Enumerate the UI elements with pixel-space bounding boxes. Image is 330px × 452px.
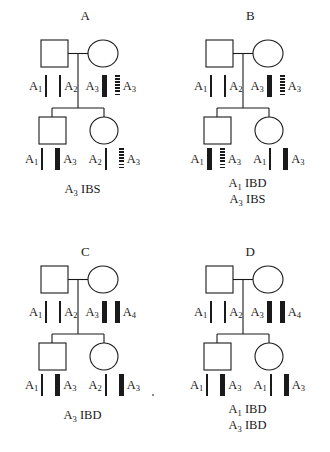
allele-label: A1 [189,153,205,166]
panel-b: B A1A2A3A3 A1A3A1A3 A1 IBDA3 IBS [165,0,330,226]
panel-d-child-alleles: A1A3A1A3 [165,371,330,399]
father-symbol [41,40,68,67]
allele-label: A1 [192,306,208,319]
thick-allele-bar [267,301,272,323]
panel-c-child-alleles: A1A3A2A3 [0,371,165,399]
thick-allele-bar [280,301,285,323]
dotted-allele-bar [220,148,225,170]
allele-label: A2 [228,80,244,93]
allele-label: A3 [290,153,306,166]
panel-c-caption: A3 IBD [0,408,165,424]
allele-label: A1 [188,379,204,392]
scan-speck [152,394,154,396]
thick-allele-bar [267,75,272,97]
allele-label: A3 [125,379,141,392]
allele-label: A1 [252,153,268,166]
son-symbol [39,343,66,370]
caption-line: A3 IBS [0,182,165,198]
allele-label: A2 [87,153,103,166]
thin-allele-bar [59,301,61,323]
allele-label: A3 [290,379,306,392]
thin-allele-bar [105,148,107,170]
allele-label: A1 [23,153,39,166]
thin-allele-bar [59,75,61,97]
thick-allele-bar [207,148,212,170]
allele-label: A3 [286,80,302,93]
panel-d: D A1A2A3A4 A1A3A1A3 A1 IBDA3 IBD [165,226,330,452]
panel-d-letter: D [168,244,330,260]
allele-label: A1 [252,379,268,392]
mother-symbol [253,40,283,67]
panel-a-parent-alleles: A1A2A3A3 [0,72,165,100]
thin-allele-bar [224,75,226,97]
allele-label: A1 [27,306,43,319]
thick-allele-bar [283,148,288,170]
allele-label: A1 [23,379,39,392]
panel-d-caption: A1 IBDA3 IBD [165,402,330,434]
panel-a-letter: A [3,8,168,24]
allele-label: A1 [27,80,43,93]
thin-allele-bar [269,148,271,170]
allele-label: A3 [62,379,78,392]
allele-label: A2 [63,80,79,93]
son-symbol [204,117,231,144]
thin-allele-bar [210,75,212,97]
thick-allele-bar [220,374,225,396]
allele-label: A3 [226,153,242,166]
panel-b-letter: B [168,8,330,24]
allele-label: A3 [227,379,243,392]
son-symbol [39,117,66,144]
panel-a-child-alleles: A1A3A2A3 [0,145,165,173]
dotted-allele-bar [280,75,285,97]
thick-allele-bar [115,301,120,323]
caption-line: A1 IBD [165,402,330,418]
panel-c-parent-alleles: A1A2A3A4 [0,298,165,326]
thick-allele-bar [284,374,289,396]
dotted-allele-bar [119,148,124,170]
allele-label: A3 [84,306,100,319]
panel-b-child-alleles: A1A3A1A3 [165,145,330,173]
mother-symbol [88,266,118,293]
pedigree-figure: A A1A2A3A3 A1A3A2A3 A3 IBS B [0,0,330,452]
daughter-symbol [90,343,118,370]
allele-label: A3 [62,153,78,166]
dotted-allele-bar [115,75,120,97]
panel-c: C A1A2A3A4 A1A3A2A3 A3 IBD [0,226,165,452]
father-symbol [206,40,233,67]
panel-a-caption: A3 IBS [0,182,165,198]
son-symbol [204,343,231,370]
father-symbol [41,266,68,293]
panel-b-parent-alleles: A1A2A3A3 [165,72,330,100]
thin-allele-bar [45,301,47,323]
allele-label: A3 [84,80,100,93]
thick-allele-bar [55,148,60,170]
thin-allele-bar [41,148,43,170]
daughter-symbol [90,117,118,144]
daughter-symbol [255,343,283,370]
thin-allele-bar [41,374,43,396]
thin-allele-bar [45,75,47,97]
allele-label: A3 [125,153,141,166]
thick-allele-bar [102,301,107,323]
thick-allele-bar [55,374,60,396]
mother-symbol [88,40,118,67]
thin-allele-bar [105,374,107,396]
allele-label: A2 [63,306,79,319]
allele-label: A3 [249,306,265,319]
thin-allele-bar [224,301,226,323]
allele-label: A4 [121,306,137,319]
panel-a: A A1A2A3A3 A1A3A2A3 A3 IBS [0,0,165,226]
thin-allele-bar [206,374,208,396]
allele-label: A3 [249,80,265,93]
daughter-symbol [255,117,283,144]
panel-d-parent-alleles: A1A2A3A4 [165,298,330,326]
allele-label: A3 [121,80,137,93]
allele-label: A1 [192,80,208,93]
panel-c-letter: C [3,244,168,260]
thick-allele-bar [119,374,124,396]
mother-symbol [253,266,283,293]
allele-label: A4 [286,306,302,319]
panel-b-caption: A1 IBDA3 IBS [165,176,330,208]
father-symbol [206,266,233,293]
thick-allele-bar [102,75,107,97]
